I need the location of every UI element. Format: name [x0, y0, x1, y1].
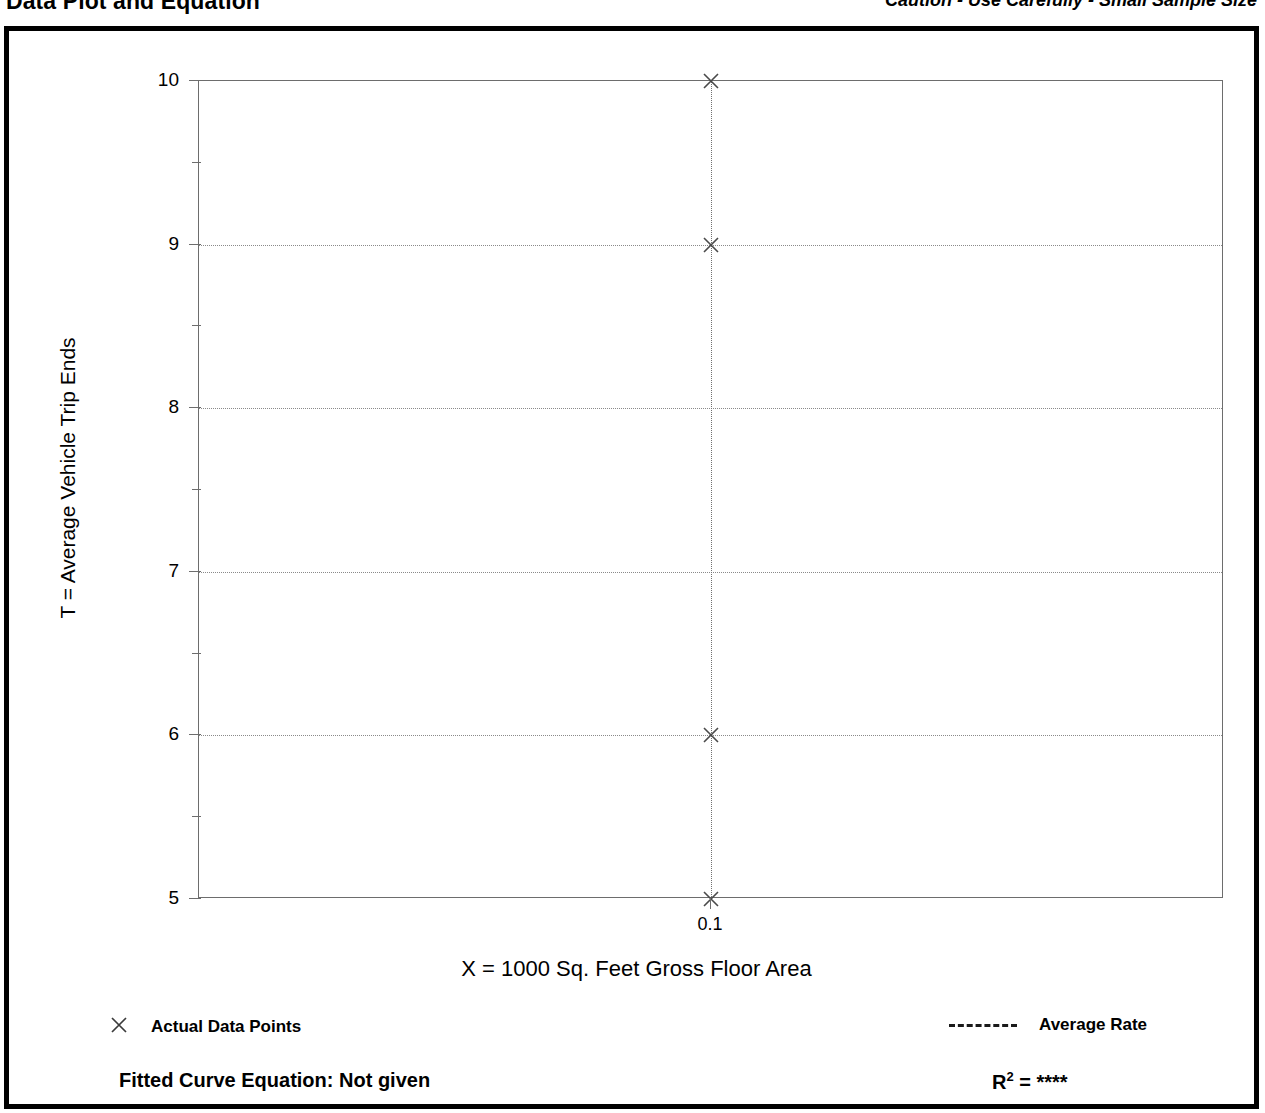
y-tick-label-10: 10 — [119, 69, 179, 91]
legend-actual-data-points: Actual Data Points — [109, 1015, 301, 1039]
y-axis-title: T = Average Vehicle Trip Ends — [56, 128, 80, 828]
x-tick-label-0-1: 0.1 — [650, 914, 770, 935]
r-squared-exponent: 2 — [1006, 1069, 1013, 1084]
fitted-curve-equation: Fitted Curve Equation: Not given — [119, 1069, 430, 1092]
plot-frame — [198, 80, 1223, 898]
y-tick-5 — [189, 898, 201, 899]
r-squared-prefix: R — [992, 1071, 1006, 1093]
legend-average-rate: Average Rate — [949, 1015, 1147, 1035]
chart-panel-border: T = Average Vehicle Trip Ends 10 9 8 7 6… — [4, 26, 1259, 1109]
r-squared-number: = **** — [1019, 1071, 1067, 1093]
legend-label-average-rate: Average Rate — [1039, 1015, 1147, 1035]
equation-row: Fitted Curve Equation: Not given R2 = **… — [9, 1069, 1264, 1109]
series-connector-line — [711, 81, 712, 897]
legend-label-actual-data-points: Actual Data Points — [151, 1017, 301, 1037]
y-tick-label-9: 9 — [119, 233, 179, 255]
x-axis-title: X = 1000 Sq. Feet Gross Floor Area — [9, 956, 1264, 982]
y-tick-label-7: 7 — [119, 560, 179, 582]
y-tick-label-5: 5 — [119, 887, 179, 909]
page-header: Data Plot and Equation Caution - Use Car… — [0, 0, 1265, 26]
x-marker-icon — [109, 1015, 129, 1039]
chart-area: T = Average Vehicle Trip Ends 10 9 8 7 6… — [9, 31, 1264, 1113]
caution-note: Caution - Use Carefully - Small Sample S… — [885, 0, 1257, 11]
x-tick-0-1 — [710, 898, 711, 909]
dashed-line-icon — [949, 1024, 1017, 1027]
y-tick-label-8: 8 — [119, 396, 179, 418]
y-tick-label-6: 6 — [119, 723, 179, 745]
r-squared-value: R2 = **** — [992, 1069, 1068, 1094]
page-title: Data Plot and Equation — [6, 0, 260, 15]
